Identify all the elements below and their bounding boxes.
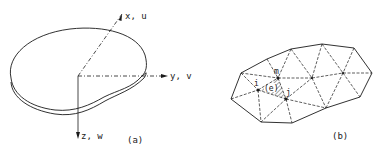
mesh-interior-edges bbox=[231, 44, 372, 123]
node-i-label: i bbox=[254, 79, 259, 88]
node-j-label: j bbox=[286, 88, 291, 97]
x-axis-arrow-icon bbox=[119, 14, 123, 21]
x-axis-label: x, u bbox=[125, 11, 147, 21]
figure-a-caption: (a) bbox=[127, 135, 143, 145]
z-axis-arrow-icon bbox=[76, 132, 80, 139]
diagram-canvas: x, u y, v z, w (a) bbox=[0, 0, 383, 155]
node-i bbox=[256, 88, 259, 91]
node-j bbox=[284, 97, 287, 100]
node-m-label: m bbox=[274, 67, 279, 76]
mesh-boundary bbox=[231, 44, 372, 123]
plate-figure: x, u y, v z, w (a) bbox=[10, 11, 191, 145]
y-axis-arrow-icon bbox=[161, 74, 168, 78]
y-axis-label: y, v bbox=[170, 71, 192, 81]
element-e-label: (e) bbox=[264, 84, 278, 93]
mesh-figure: m i j (e) (b) bbox=[231, 44, 372, 141]
figure-b-caption: (b) bbox=[332, 131, 348, 141]
node-m bbox=[276, 76, 279, 79]
figure: x, u y, v z, w (a) bbox=[0, 0, 383, 155]
x-axis bbox=[78, 14, 122, 76]
axes bbox=[76, 14, 168, 139]
z-axis-label: z, w bbox=[81, 131, 103, 141]
